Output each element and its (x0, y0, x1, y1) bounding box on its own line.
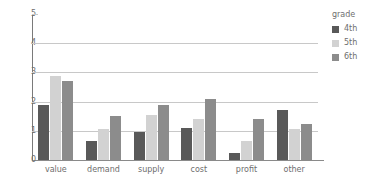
bar (86, 141, 97, 160)
legend-item[interactable]: 4th (332, 25, 357, 33)
bar (62, 81, 73, 160)
bar (181, 128, 192, 160)
x-tick-label: other (270, 166, 318, 174)
plot-area (32, 14, 318, 160)
bar (193, 119, 204, 160)
legend-title: grade (332, 11, 357, 19)
legend-swatch-icon (332, 54, 339, 61)
x-axis-line (32, 160, 324, 161)
bar (253, 119, 264, 160)
legend-swatch-icon (332, 26, 339, 33)
bar (241, 141, 252, 160)
legend: grade 4th5th6th (332, 11, 357, 67)
bar-group (127, 14, 175, 160)
bar-group (270, 14, 318, 160)
bar-group (223, 14, 271, 160)
bar-group (80, 14, 128, 160)
bar (289, 129, 300, 160)
bar (158, 105, 169, 160)
x-tick-label: value (32, 166, 80, 174)
legend-label: 6th (344, 53, 357, 61)
x-tick-label: cost (175, 166, 223, 174)
bar (229, 153, 240, 160)
bar (110, 116, 121, 160)
bar (98, 129, 109, 160)
x-tick-label: profit (223, 166, 271, 174)
legend-items: 4th5th6th (332, 25, 357, 61)
legend-label: 5th (344, 39, 357, 47)
bar (50, 76, 61, 160)
bar-chart: 012345 valuedemandsupplycostprofitother … (0, 0, 376, 189)
bar (134, 132, 145, 160)
bar (277, 110, 288, 160)
legend-swatch-icon (332, 40, 339, 47)
legend-item[interactable]: 5th (332, 39, 357, 47)
legend-label: 4th (344, 25, 357, 33)
bar-group (175, 14, 223, 160)
bar (205, 99, 216, 160)
legend-item[interactable]: 6th (332, 53, 357, 61)
x-tick-label: demand (80, 166, 128, 174)
bar (301, 124, 312, 160)
bar (146, 115, 157, 160)
bar (38, 105, 49, 160)
x-tick-label: supply (127, 166, 175, 174)
bar-group (32, 14, 80, 160)
